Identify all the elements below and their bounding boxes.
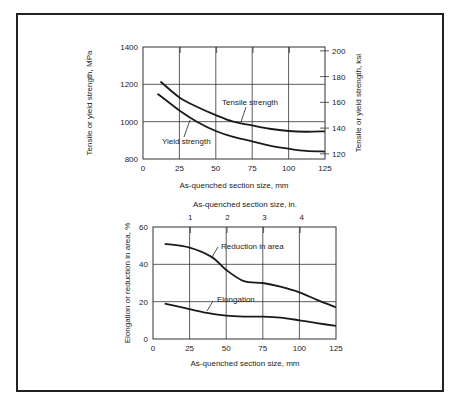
top-chart-x-label: As-quenched section size, mm	[180, 181, 289, 190]
x-tick-label: 100	[282, 164, 296, 173]
y-tick-label-right: 200	[332, 47, 346, 56]
y-tick-label: 40	[139, 260, 148, 269]
y-tick-label: 800	[125, 155, 139, 164]
top-chart-y-label-right: Tensile or yield strength, ksi	[354, 54, 363, 152]
x-tick-label: 50	[222, 344, 231, 353]
x-tick-label-inches: 3	[262, 213, 267, 222]
x-tick-label: 0	[151, 344, 156, 353]
x-tick-label: 0	[141, 164, 146, 173]
x-tick-label-inches: 2	[225, 213, 230, 222]
series-line	[165, 304, 336, 326]
bottom-chart-series	[165, 244, 336, 326]
x-tick-label: 125	[329, 344, 343, 353]
bottom-chart-y-ticks: 0204060	[139, 223, 148, 344]
top-chart-y-label-left: Tensile or yield strength, MPa	[85, 50, 94, 155]
y-tick-label: 20	[139, 298, 148, 307]
elongation-label: Elongation	[217, 295, 255, 304]
x-tick-label: 25	[185, 344, 194, 353]
x-tick-label-inches: 4	[300, 213, 305, 222]
y-tick-label: 1400	[120, 43, 138, 52]
reduction-in-area-label: Reduction in area	[221, 242, 284, 251]
x-tick-label-inches: 1	[188, 213, 193, 222]
yield-strength-leader	[184, 120, 190, 137]
top-chart-x-ticks: 0255075100125	[141, 164, 332, 173]
yield-strength-label: Yield strength	[162, 137, 211, 146]
top-chart-y-ticks: 800100012001400	[120, 43, 138, 164]
elongation-leader	[207, 301, 213, 311]
figure-canvas: 0255075100125 800100012001400 1201401601…	[0, 0, 459, 407]
x-tick-label: 125	[318, 164, 332, 173]
tensile-strength-leader	[241, 107, 246, 122]
x-tick-label: 100	[293, 344, 307, 353]
y-tick-label-right: 160	[332, 98, 346, 107]
x-tick-label: 75	[248, 164, 257, 173]
bottom-chart: As-quenched section size, in. 0255075100…	[123, 200, 343, 368]
bottom-chart-x-ticks-top: 1234	[188, 213, 305, 222]
x-tick-label: 25	[175, 164, 184, 173]
bottom-chart-x-label-top: As-quenched section size, in.	[193, 200, 297, 209]
bottom-chart-y-label: Elongation or reduction in area, %	[123, 223, 132, 344]
y-tick-label-right: 120	[332, 150, 346, 159]
bottom-chart-x-ticks: 0255075100125	[151, 344, 343, 353]
y-tick-label: 0	[144, 335, 149, 344]
y-tick-label-right: 180	[332, 73, 346, 82]
y-tick-label: 1200	[120, 80, 138, 89]
y-tick-label-right: 140	[332, 124, 346, 133]
top-chart: 0255075100125 800100012001400 1201401601…	[85, 43, 363, 190]
x-tick-label: 50	[211, 164, 220, 173]
top-chart-y-ticks-right: 120140160180200	[320, 47, 346, 159]
y-tick-label: 60	[139, 223, 148, 232]
bottom-chart-x-label: As-quenched section size, mm	[191, 359, 300, 368]
tensile-strength-label: Tensile strength	[222, 98, 278, 107]
reduction-in-area-leader	[212, 247, 218, 257]
y-tick-label: 1000	[120, 118, 138, 127]
x-tick-label: 75	[258, 344, 267, 353]
